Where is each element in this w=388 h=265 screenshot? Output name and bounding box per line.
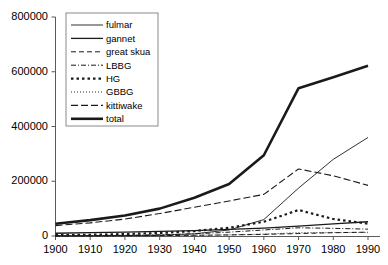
legend-label-fulmar: fulmar: [106, 19, 132, 30]
legend-label-kittiwake: kittiwake: [106, 100, 142, 111]
y-tick-label: 600000: [0, 65, 48, 77]
line-chart: fulmargannetgreat skuaLBBGHGGBBGkittiwak…: [0, 0, 388, 265]
series-line-kittiwake: [56, 169, 369, 226]
y-tick-label: 400000: [0, 120, 48, 132]
legend-label-total: total: [106, 113, 124, 124]
legend-label-lbbg: LBBG: [106, 60, 131, 71]
legend-label-great-skua: great skua: [106, 46, 151, 57]
y-tick-label: 200000: [0, 174, 48, 186]
legend-label-gbbg: GBBG: [106, 86, 133, 97]
x-tick-label: 1990: [346, 243, 388, 255]
y-tick-label: 0: [0, 229, 48, 241]
series-line-fulmar: [56, 137, 369, 235]
legend-label-gannet: gannet: [106, 33, 135, 44]
y-tick-label: 800000: [0, 10, 48, 22]
series-line-hg: [56, 210, 369, 235]
chart-plot-area: fulmargannetgreat skuaLBBGHGGBBGkittiwak…: [0, 0, 388, 265]
y-axis-ticks: [52, 17, 56, 236]
legend-label-hg: HG: [106, 73, 120, 84]
